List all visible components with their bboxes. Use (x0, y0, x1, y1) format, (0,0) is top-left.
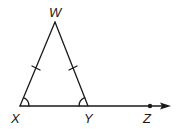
point-z-dot (148, 104, 152, 108)
segment-wy (55, 22, 88, 106)
label-z: Z (143, 112, 151, 125)
label-x: X (11, 112, 20, 125)
angle-arc-y (79, 98, 85, 106)
label-w: W (49, 6, 61, 19)
segment-wx (20, 22, 55, 106)
angle-arc-x (24, 98, 30, 106)
label-y: Y (84, 112, 93, 125)
